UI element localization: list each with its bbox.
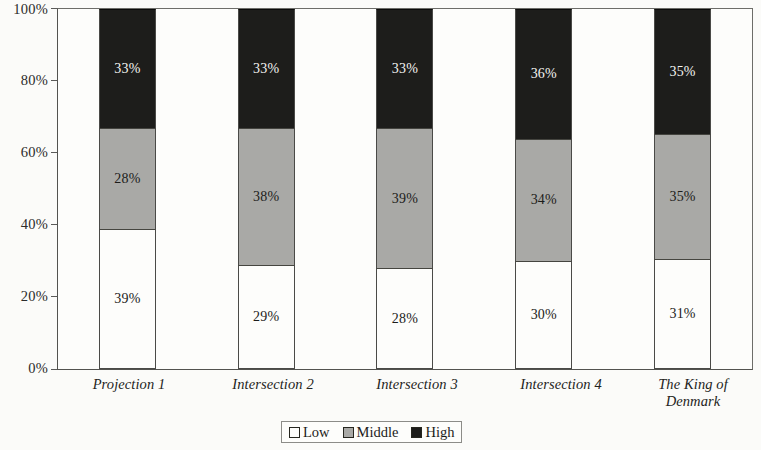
bar-segment-label: 34% xyxy=(531,193,557,207)
bar-segment-middle[interactable]: 34% xyxy=(515,139,572,261)
bar-column-projection-1[interactable]: 33% 28% 39% xyxy=(99,9,156,369)
legend-item-middle[interactable]: Middle xyxy=(343,425,399,440)
bar-segment-high[interactable]: 33% xyxy=(99,9,156,128)
legend-swatch-icon xyxy=(343,427,354,438)
legend-swatch-icon xyxy=(289,427,300,438)
bar-segment-low[interactable]: 28% xyxy=(376,268,433,369)
legend-item-high[interactable]: High xyxy=(411,425,454,440)
x-axis-label-intersection-3: Intersection 3 xyxy=(357,376,477,393)
bar-segment-label: 29% xyxy=(253,310,279,324)
bar-segment-low[interactable]: 39% xyxy=(99,229,156,369)
bar-segment-high[interactable]: 33% xyxy=(238,9,295,128)
y-tick-label-80: 80% xyxy=(0,73,48,87)
bar-segment-label: 33% xyxy=(392,62,418,76)
bar-column-intersection-3[interactable]: 33% 39% 28% xyxy=(376,9,433,369)
legend-label: Middle xyxy=(357,425,399,440)
bars-layer: 33% 28% 39% 33% 38% 29% xyxy=(58,9,752,369)
bar-segment-label: 30% xyxy=(531,308,557,322)
chart-legend: Low Middle High xyxy=(281,421,462,443)
legend-item-low[interactable]: Low xyxy=(289,425,330,440)
bar-segment-high[interactable]: 33% xyxy=(376,9,433,128)
plot-area: 33% 28% 39% 33% 38% 29% xyxy=(57,8,753,370)
bar-column-intersection-4[interactable]: 36% 34% 30% xyxy=(515,9,572,369)
bar-segment-label: 31% xyxy=(669,307,695,321)
x-axis-label-intersection-4: Intersection 4 xyxy=(501,376,621,393)
bar-segment-label: 38% xyxy=(253,190,279,204)
stacked-bar-chart: 100% 80% 60% 40% 20% 0% 33% 28% 39% xyxy=(0,0,761,450)
bar-segment-low[interactable]: 30% xyxy=(515,261,572,369)
legend-label: High xyxy=(425,425,454,440)
bar-segment-low[interactable]: 29% xyxy=(238,265,295,369)
bar-segment-label: 33% xyxy=(253,62,279,76)
x-axis-label-intersection-2: Intersection 2 xyxy=(213,376,333,393)
bar-column-intersection-2[interactable]: 33% 38% 29% xyxy=(238,9,295,369)
bar-column-the-king-of-denmark[interactable]: 35% 35% 31% xyxy=(654,9,711,369)
bar-segment-label: 33% xyxy=(114,62,140,76)
legend-swatch-icon xyxy=(411,427,422,438)
bar-segment-label: 39% xyxy=(114,292,140,306)
bar-segment-label: 35% xyxy=(669,65,695,79)
bar-segment-label: 35% xyxy=(669,190,695,204)
y-tick-label-20: 20% xyxy=(0,289,48,303)
x-axis: Projection 1 Intersection 2 Intersection… xyxy=(57,376,753,422)
bar-segment-label: 39% xyxy=(392,192,418,206)
bar-segment-low[interactable]: 31% xyxy=(654,259,711,370)
bar-segment-middle[interactable]: 38% xyxy=(238,128,295,265)
x-axis-label-projection-1: Projection 1 xyxy=(69,376,189,393)
bar-segment-middle[interactable]: 35% xyxy=(654,134,711,259)
y-tick-label-60: 60% xyxy=(0,145,48,159)
y-tick-label-100: 100% xyxy=(0,2,48,16)
bar-segment-high[interactable]: 35% xyxy=(654,9,711,134)
bar-segment-high[interactable]: 36% xyxy=(515,9,572,139)
y-axis: 100% 80% 60% 40% 20% 0% xyxy=(0,0,48,378)
x-axis-label-the-king-of-denmark: The King of Denmark xyxy=(645,376,741,409)
bar-segment-middle[interactable]: 39% xyxy=(376,128,433,268)
bar-segment-label: 28% xyxy=(392,312,418,326)
y-tick-label-0: 0% xyxy=(0,361,48,375)
bar-segment-label: 36% xyxy=(531,67,557,81)
y-tick-label-40: 40% xyxy=(0,217,48,231)
legend-label: Low xyxy=(303,425,330,440)
bar-segment-middle[interactable]: 28% xyxy=(99,128,156,229)
bar-segment-label: 28% xyxy=(114,172,140,186)
